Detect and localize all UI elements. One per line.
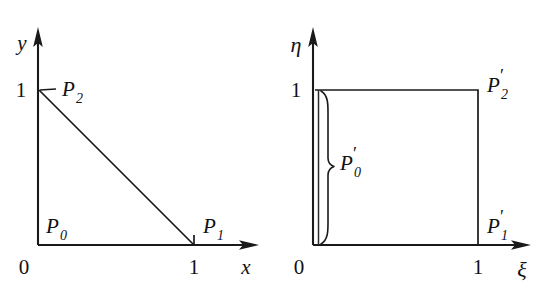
vertex-label-p1-prime-base: P — [486, 214, 500, 238]
vertex-label-p1: P 1 — [202, 214, 224, 243]
panel-triangle-domain: 1 1 0 y x P 2 P 0 P 1 — [15, 27, 259, 279]
vertex-label-p2-subscript: 2 — [76, 91, 83, 106]
triangle-hypotenuse — [39, 90, 194, 245]
vertex-label-p1-prime-mark: ′ — [500, 207, 504, 227]
panel-square-domain: 1 1 0 η ξ P 0 ′ P 2 ′ P — [291, 27, 531, 282]
vertex-label-p2: P 2 — [61, 77, 83, 106]
vertex-label-p2-prime-subscript: 2 — [501, 87, 508, 102]
vertex-label-p1-prime: P 1 ′ — [486, 207, 508, 243]
y-axis-tick-label-1: 1 — [16, 78, 27, 102]
vertex-label-p2-prime: P 2 ′ — [486, 66, 508, 102]
vertex-label-p0-prime: P 0 ′ — [339, 144, 361, 180]
x-axis-tick-label-1: 1 — [189, 255, 200, 279]
vertex-label-p0-prime-subscript: 0 — [354, 165, 361, 180]
vertex-label-p2-base: P — [61, 77, 75, 101]
eta-axis-label: η — [291, 32, 302, 57]
vertex-label-p1-prime-subscript: 1 — [501, 228, 508, 243]
vertex-label-p1-base: P — [202, 214, 216, 238]
vertex-label-p1-subscript: 1 — [217, 228, 224, 243]
vertex-label-p0-prime-mark: ′ — [353, 144, 357, 164]
x-axis-label: x — [240, 255, 251, 279]
origin-label-right: 0 — [294, 255, 305, 279]
p2-leader-line — [40, 89, 56, 90]
origin-label-left: 0 — [19, 255, 30, 279]
y-axis-label: y — [15, 31, 27, 55]
vertex-label-p0: P 0 — [45, 214, 67, 243]
xi-axis-tick-label-1: 1 — [473, 255, 484, 279]
xi-axis-label: ξ — [517, 257, 527, 282]
eta-axis-tick-label-1: 1 — [291, 78, 302, 102]
figure-container: 1 1 0 y x P 2 P 0 P 1 — [0, 0, 556, 302]
diagram-svg: 1 1 0 y x P 2 P 0 P 1 — [0, 0, 556, 302]
degenerate-edge-brace — [321, 91, 334, 244]
vertex-label-p0-subscript: 0 — [60, 228, 67, 243]
vertex-label-p2-prime-mark: ′ — [500, 66, 504, 86]
vertex-label-p2-prime-base: P — [486, 73, 500, 97]
vertex-label-p0-prime-base: P — [339, 151, 353, 175]
vertex-label-p0-base: P — [45, 214, 59, 238]
